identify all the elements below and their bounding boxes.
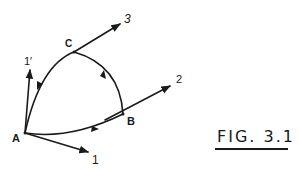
- arc-c-to-a: [25, 52, 74, 133]
- point-c-dot: [73, 51, 76, 54]
- figure-caption: FIG. 3.1: [217, 129, 295, 145]
- vector-1-prime-label: 1′: [24, 56, 32, 67]
- figure-caption-underline: [215, 148, 288, 150]
- vector-3-label: 3: [124, 13, 131, 25]
- point-b-dot: [122, 113, 125, 116]
- arc-a-to-b: [25, 114, 123, 134]
- arc-b-to-c-arrowhead-icon: [100, 70, 106, 79]
- point-c-label: C: [65, 39, 72, 49]
- point-a-label: A: [12, 133, 20, 144]
- vector-1-arrow: [25, 133, 88, 152]
- vector-3-arrow: [74, 24, 120, 52]
- arc-b-to-c: [74, 52, 123, 114]
- vector-1-label: 1: [92, 154, 99, 166]
- vector-2-label: 2: [176, 74, 182, 85]
- arc-a-to-b-arrowhead-icon: [91, 126, 99, 132]
- point-a-dot: [24, 132, 27, 135]
- point-b-label: B: [127, 116, 135, 127]
- vector-2-arrow: [105, 86, 170, 120]
